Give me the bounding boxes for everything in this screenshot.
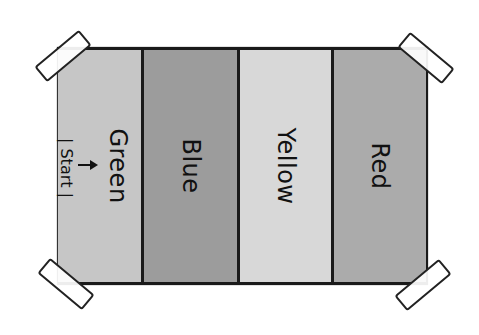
start-label: | Start | (57, 138, 76, 198)
stripe-green: Green | Start | (58, 50, 141, 282)
stripe-label-blue: Blue (177, 138, 205, 193)
striped-sheet: Green | Start | Blue Yellow Red (57, 47, 428, 285)
arrow-right-icon (78, 160, 98, 170)
stripe-label-red: Red (366, 142, 394, 189)
stripe-label-yellow: Yellow (272, 128, 300, 205)
stripe-yellow: Yellow (237, 50, 331, 282)
stripe-blue: Blue (141, 50, 237, 282)
stripe-red: Red (331, 50, 426, 282)
stripe-label-green: Green (104, 128, 132, 203)
